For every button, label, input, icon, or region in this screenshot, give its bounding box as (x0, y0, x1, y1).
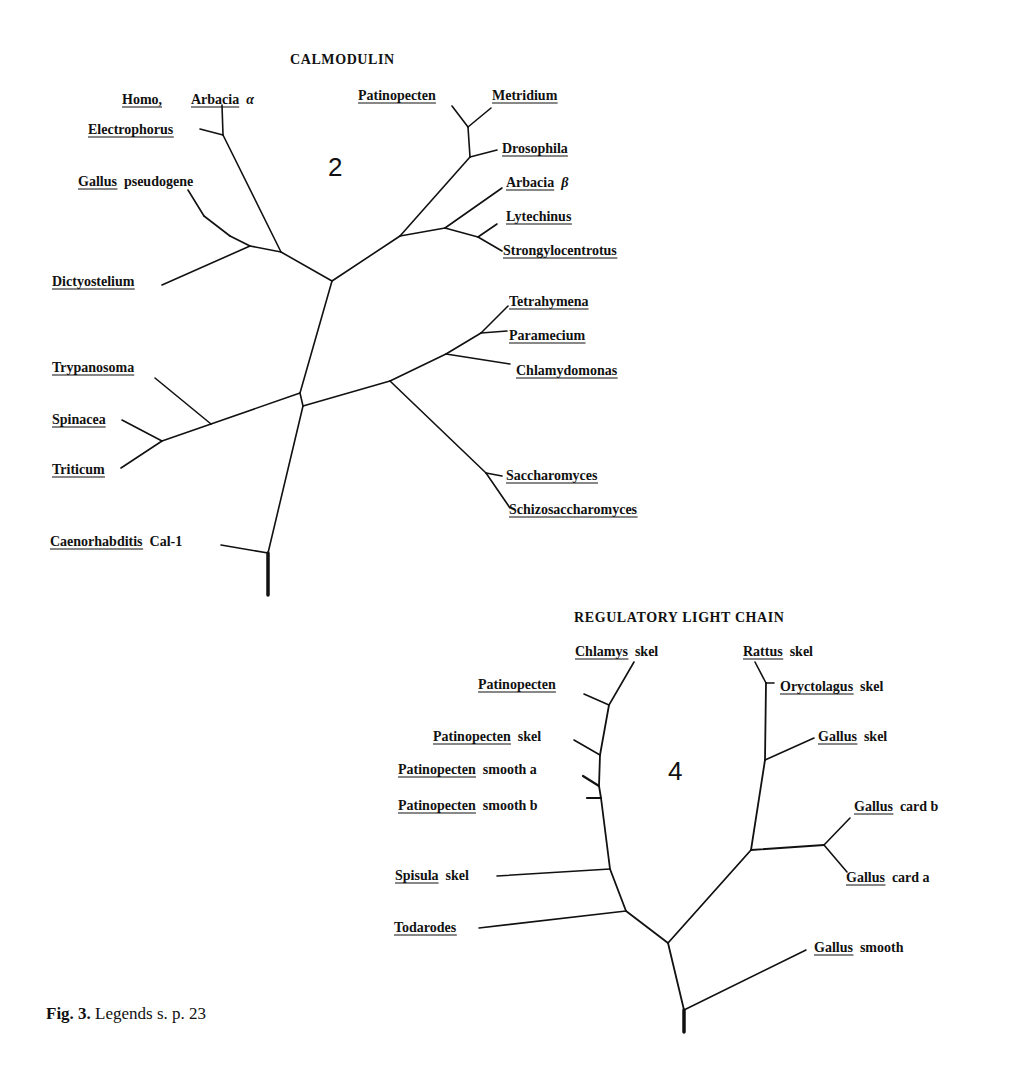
taxon-label: Dictyostelium (52, 274, 135, 289)
taxon-suffix: smooth b (483, 798, 538, 813)
tree-branch (250, 246, 281, 252)
panel-number-4: 4 (668, 756, 682, 786)
taxon-label: Patinopectensmooth a (398, 762, 537, 777)
genus-name: Gallus (846, 870, 885, 885)
taxon-label: Galluspseudogene (78, 174, 193, 189)
taxon-label: Gallussmooth (814, 940, 904, 955)
tree-branch (445, 188, 502, 228)
genus-name: Rattus (743, 644, 783, 659)
taxon-label: Arbaciaβ (506, 175, 569, 190)
tree-branch (211, 393, 300, 424)
taxon-suffix: β (560, 175, 569, 190)
tree-branch (390, 354, 446, 381)
tree-branch (446, 333, 481, 354)
tree-branch (751, 760, 765, 850)
genus-name: Patinopecten (478, 677, 556, 692)
regulatory-light-chain-tree: REGULATORY LIGHT CHAIN 4 ChlamysskelPati… (394, 610, 939, 1032)
taxon-label: Electrophorus (88, 122, 174, 137)
tree-branch (584, 694, 609, 705)
tree-branch (300, 393, 303, 406)
taxon-suffix: skel (790, 644, 813, 659)
taxon-label: CaenorhabditisCal-1 (50, 534, 182, 549)
tree-branch (281, 252, 332, 281)
tree-branch (765, 738, 814, 760)
tree-branch (668, 850, 751, 943)
tree-branch (300, 281, 332, 393)
tree-branch (481, 306, 508, 333)
taxon-labels: ChlamysskelPatinopectenPatinopectenskelP… (394, 644, 939, 955)
taxon-suffix: Cal-1 (150, 534, 183, 549)
tree-branch (303, 381, 390, 406)
taxon-suffix: skel (446, 868, 469, 883)
panel-number-2: 2 (328, 152, 342, 182)
genus-name: Lytechinus (506, 209, 572, 224)
taxon-suffix: smooth a (483, 762, 537, 777)
taxon-label: Triticum (52, 462, 105, 477)
taxon-label: Homo, (122, 92, 162, 107)
taxon-suffix: skel (860, 679, 883, 694)
genus-name: Homo, (122, 92, 162, 107)
tree-branch (599, 755, 600, 786)
genus-name: Saccharomyces (506, 468, 598, 483)
genus-name: Patinopecten (433, 729, 511, 744)
taxon-suffix: skel (864, 729, 887, 744)
tree-branch (162, 424, 211, 441)
tree-branch (468, 108, 491, 127)
tree-branch (204, 216, 230, 236)
regulatory-light-chain-title: REGULATORY LIGHT CHAIN (574, 610, 785, 625)
tree-branch (223, 135, 281, 252)
taxon-label: Chlamysskel (575, 644, 658, 659)
tree-branch (470, 150, 497, 157)
genus-name: Spinacea (52, 412, 106, 427)
taxon-label: Tetrahymena (509, 294, 589, 309)
taxon-label: Drosophila (502, 141, 568, 156)
genus-name: Patinopecten (398, 762, 476, 777)
taxon-label: Saccharomyces (506, 468, 598, 483)
genus-name: Chlamys (575, 644, 628, 659)
taxon-label: Schizosaccharomyces (509, 502, 638, 517)
calmodulin-title: CALMODULIN (290, 52, 395, 67)
tree-branch (445, 228, 478, 237)
tree-branch (200, 129, 223, 135)
tree-branch (122, 420, 162, 441)
tree-branch (751, 845, 824, 850)
taxon-label: Strongylocentrotus (503, 243, 617, 258)
tree-branch (600, 705, 609, 755)
taxon-label: Galluscard a (846, 870, 930, 885)
tree-branch (599, 786, 601, 798)
taxon-label: Oryctolagusskel (780, 679, 884, 694)
genus-name: Spisula (395, 868, 439, 883)
tree-branch (479, 911, 626, 928)
tree-branch (390, 381, 486, 473)
tree-branch (452, 106, 468, 127)
taxon-label: Patinopecten (358, 88, 436, 103)
tree-branch (221, 545, 268, 553)
tree-branch (684, 950, 806, 1010)
taxon-label: Todarodes (394, 920, 457, 935)
tree-branch (824, 818, 850, 845)
taxon-label: Galluscard b (854, 799, 939, 814)
tree-branch (155, 378, 211, 424)
genus-name: Todarodes (394, 920, 457, 935)
tree-branch (222, 105, 223, 135)
genus-name: Drosophila (502, 141, 568, 156)
tree-branch (446, 354, 510, 364)
tree-branch (268, 406, 303, 553)
taxon-suffix: smooth (860, 940, 904, 955)
taxon-label: Lytechinus (506, 209, 572, 224)
taxon-label: Patinopectenskel (433, 729, 541, 744)
genus-name: Strongylocentrotus (503, 243, 617, 258)
tree-branch (574, 740, 600, 755)
tree-branch (609, 662, 634, 705)
taxon-label: Trypanosoma (52, 360, 134, 375)
taxon-suffix: card b (900, 799, 939, 814)
tree-branch (583, 776, 599, 786)
taxon-suffix: card a (892, 870, 930, 885)
caption-text: Legends s. p. 23 (95, 1004, 206, 1023)
caption-figure-number: Fig. 3. (46, 1004, 91, 1023)
tree-branch (478, 237, 502, 251)
genus-name: Arbacia (191, 92, 239, 107)
genus-name: Oryctolagus (780, 679, 854, 694)
genus-name: Gallus (818, 729, 857, 744)
taxon-suffix: skel (518, 729, 541, 744)
